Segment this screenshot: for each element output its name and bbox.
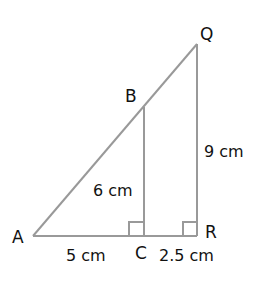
measure-QR: 9 cm xyxy=(204,142,244,161)
right-angle-mark-C xyxy=(129,222,144,236)
measure-BC: 6 cm xyxy=(93,181,133,200)
point-label-C: C xyxy=(135,243,147,263)
point-label-B: B xyxy=(125,86,137,106)
measure-CR: 2.5 cm xyxy=(159,246,214,265)
point-label-A: A xyxy=(12,227,24,247)
segment-AQ xyxy=(33,44,197,236)
point-label-Q: Q xyxy=(200,24,213,44)
triangle-diagram: A B C Q R 5 cm 2.5 cm 6 cm 9 cm xyxy=(0,0,264,282)
right-angle-mark-R xyxy=(183,222,197,236)
measure-AC: 5 cm xyxy=(66,246,106,265)
point-label-R: R xyxy=(205,222,217,242)
